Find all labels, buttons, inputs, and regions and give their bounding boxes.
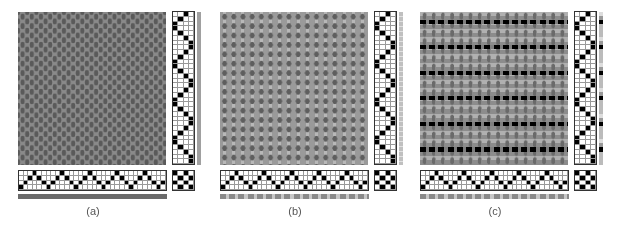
warp-color-bar-a — [18, 194, 167, 199]
tieup-grid-b — [374, 170, 397, 191]
panel-a: (a) — [0, 0, 210, 229]
woven-cloth-a — [18, 12, 166, 165]
caption-b: (b) — [265, 205, 325, 217]
warp-color-bar-b — [220, 194, 369, 199]
caption-c: (c) — [465, 205, 525, 217]
threading-grid-b — [220, 170, 369, 191]
weft-color-bar-a — [197, 12, 201, 165]
woven-cloth-c — [420, 12, 568, 165]
panel-b: (b) — [202, 0, 412, 229]
treadling-grid-c — [574, 11, 597, 165]
threading-grid-c — [420, 170, 569, 191]
tieup-grid-c — [574, 170, 597, 191]
tieup-grid-a — [172, 170, 195, 191]
treadling-grid-b — [374, 11, 397, 165]
threading-grid-a — [18, 170, 167, 191]
weft-color-bar-c — [599, 12, 603, 165]
woven-cloth-b — [220, 12, 368, 165]
caption-a: (a) — [63, 205, 123, 217]
panel-c: (c) — [402, 0, 612, 229]
warp-color-bar-c — [420, 194, 569, 199]
treadling-grid-a — [172, 11, 195, 165]
